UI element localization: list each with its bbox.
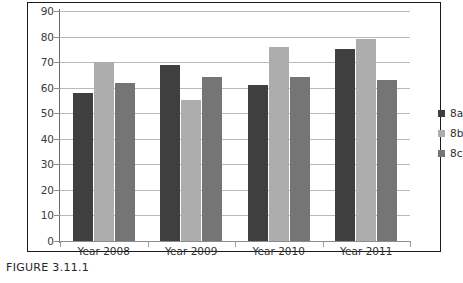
legend-item-8c[interactable]: 8c <box>438 143 463 163</box>
y-axis-label: 50 <box>41 108 54 119</box>
chart-frame: 9080706050403020100 Year 2008Year 2009Ye… <box>27 2 441 252</box>
bar-group <box>73 11 135 241</box>
x-axis-label-2: Year 2010 <box>235 246 323 257</box>
bar-8b-year-2008[interactable] <box>94 62 114 241</box>
bar-8c-year-2011[interactable] <box>377 80 397 241</box>
bar-8b-year-2009[interactable] <box>181 100 201 241</box>
y-axis-label: 30 <box>41 159 54 170</box>
y-axis-tick <box>54 190 60 191</box>
y-axis-label: 20 <box>41 185 54 196</box>
x-axis-label-3: Year 2011 <box>323 246 411 257</box>
y-axis-label: 40 <box>41 134 54 145</box>
bar-8a-year-2008[interactable] <box>73 93 93 241</box>
x-axis-label-0: Year 2008 <box>60 246 148 257</box>
legend-label: 8a <box>450 108 463 119</box>
bar-8a-year-2010[interactable] <box>248 85 268 241</box>
y-axis-tick <box>54 88 60 89</box>
chart-legend: 8a8b8c <box>438 103 463 163</box>
bar-8a-year-2009[interactable] <box>160 65 180 241</box>
y-axis-label: 0 <box>47 236 54 247</box>
plot-area: 9080706050403020100 <box>60 11 410 241</box>
x-axis-label-1: Year 2009 <box>148 246 236 257</box>
y-axis-tick <box>54 37 60 38</box>
legend-item-8b[interactable]: 8b <box>438 123 463 143</box>
legend-swatch-icon <box>438 110 445 117</box>
bar-group <box>248 11 310 241</box>
y-axis-tick <box>54 139 60 140</box>
bar-8c-year-2009[interactable] <box>202 77 222 241</box>
bar-8a-year-2011[interactable] <box>335 49 355 241</box>
y-axis-label: 60 <box>41 82 54 93</box>
bar-8b-year-2010[interactable] <box>269 47 289 241</box>
y-axis-label: 70 <box>41 57 54 68</box>
y-axis-label: 90 <box>41 6 54 17</box>
bar-group <box>160 11 222 241</box>
bar-8b-year-2011[interactable] <box>356 39 376 241</box>
y-axis-tick <box>54 113 60 114</box>
legend-label: 8b <box>450 128 463 139</box>
y-axis-tick <box>54 11 60 12</box>
legend-item-8a[interactable]: 8a <box>438 103 463 123</box>
y-axis-tick <box>54 215 60 216</box>
legend-swatch-icon <box>438 130 445 137</box>
y-axis-tick <box>54 62 60 63</box>
y-axis-label: 10 <box>41 210 54 221</box>
legend-swatch-icon <box>438 150 445 157</box>
y-axis-tick <box>54 164 60 165</box>
y-axis-label: 80 <box>41 31 54 42</box>
bar-8c-year-2008[interactable] <box>115 83 135 241</box>
x-axis-tick <box>410 241 411 247</box>
figure-caption: FIGURE 3.11.1 <box>6 262 89 273</box>
legend-label: 8c <box>450 148 462 159</box>
bar-group <box>335 11 397 241</box>
bar-8c-year-2010[interactable] <box>290 77 310 241</box>
